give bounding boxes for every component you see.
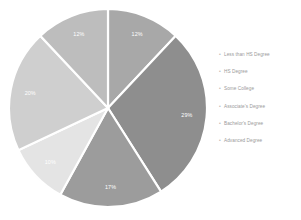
pie-svg: 12%29%17%10%20%12% — [8, 8, 208, 208]
pie-plot-area: 12%29%17%10%20%12% — [8, 8, 208, 208]
pie-slice-group — [9, 9, 207, 207]
pie-slice-value-label: 10% — [45, 159, 56, 165]
legend-item[interactable]: •Less than HS Degree — [219, 50, 299, 67]
pie-chart-figure: 12%29%17%10%20%12% •Less than HS Degree•… — [0, 0, 301, 220]
legend-item-label: Some College — [224, 84, 299, 93]
legend-item[interactable]: •Bachelor's Degree — [219, 119, 299, 136]
legend-item-label: HS Degree — [224, 67, 299, 76]
legend-item[interactable]: •Advanced Degree — [219, 136, 299, 153]
pie-slice-value-label: 20% — [25, 90, 36, 96]
pie-slice-value-label: 12% — [73, 31, 84, 37]
chart-legend: •Less than HS Degree•HS Degree•Some Coll… — [219, 50, 299, 153]
legend-item-label: Less than HS Degree — [224, 50, 299, 59]
legend-item-label: Advanced Degree — [224, 136, 299, 145]
legend-item-label: Associate's Degree — [224, 102, 299, 111]
legend-item[interactable]: •HS Degree — [219, 67, 299, 84]
pie-slice-value-label: 17% — [105, 184, 116, 190]
legend-item[interactable]: •Some College — [219, 84, 299, 101]
pie-slice-value-label: 12% — [132, 31, 143, 37]
legend-item[interactable]: •Associate's Degree — [219, 102, 299, 119]
pie-slice-value-label: 29% — [181, 112, 192, 118]
legend-item-label: Bachelor's Degree — [224, 119, 299, 128]
